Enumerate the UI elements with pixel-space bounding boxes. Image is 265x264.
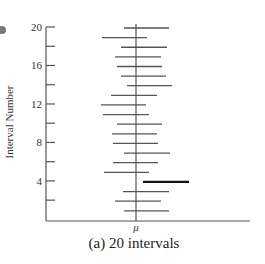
- chart-caption: (a) 20 intervals: [89, 235, 180, 252]
- interval-lines: [101, 28, 189, 211]
- y-tick-label: 20: [31, 21, 43, 33]
- y-tick-label: 16: [31, 59, 43, 71]
- y-tick-label: 4: [37, 175, 43, 187]
- confidence-interval-chart: 48121620 μ Interval Number (a) 20 interv…: [0, 0, 265, 264]
- y-ticks: 48121620: [31, 21, 55, 200]
- y-axis-label: Interval Number: [3, 85, 15, 158]
- mu-label: μ: [132, 221, 139, 233]
- bullet-dot: [0, 26, 6, 34]
- y-tick-label: 8: [37, 136, 43, 148]
- y-tick-label: 12: [31, 98, 42, 110]
